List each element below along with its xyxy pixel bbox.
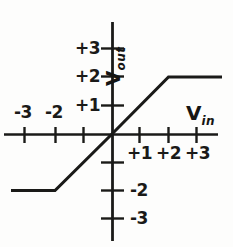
y-axis-title: Vout bbox=[103, 46, 127, 86]
x-axis-title-symbol: V bbox=[186, 101, 201, 125]
x-tick-label-minus3: -3 bbox=[14, 104, 32, 121]
x-axis-title-subscript: in bbox=[201, 114, 215, 128]
x-tick-label-minus2: -2 bbox=[45, 104, 63, 121]
y-axis-title-symbol: V bbox=[101, 71, 125, 86]
y-tick-label-plus1: +1 bbox=[75, 97, 100, 114]
x-tick-label-plus1: +1 bbox=[127, 145, 152, 162]
x-axis-title: Vin bbox=[186, 103, 215, 127]
y-tick-label-minus3: -3 bbox=[130, 210, 148, 227]
x-tick-label-plus2: +2 bbox=[156, 145, 181, 162]
y-tick-label-minus2: -2 bbox=[130, 182, 148, 199]
y-axis-title-subscript: out bbox=[114, 46, 128, 70]
transfer-characteristic-figure: -3 -2 +1 +2 +3 +3 +2 +1 -2 -3 Vin Vout bbox=[0, 0, 233, 247]
y-tick-label-plus2: +2 bbox=[75, 68, 100, 85]
x-tick-label-plus3: +3 bbox=[185, 145, 210, 162]
y-tick-label-plus3: +3 bbox=[75, 40, 100, 57]
